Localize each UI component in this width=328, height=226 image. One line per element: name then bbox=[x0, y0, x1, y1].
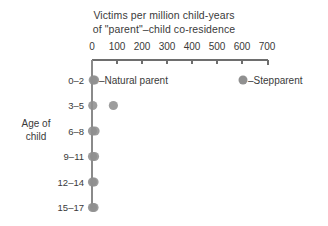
stepparent-annotation: –Stepparent bbox=[248, 75, 303, 86]
dot-plot-chart: Victims per million child-years of "pare… bbox=[0, 0, 328, 226]
y-category-label-0-2: 0–2 bbox=[40, 75, 84, 86]
y-axis-title-line-2: child bbox=[8, 131, 64, 144]
data-marker bbox=[88, 101, 97, 110]
x-axis bbox=[92, 60, 268, 65]
y-category-label-12-14: 12–14 bbox=[30, 177, 84, 188]
data-marker bbox=[90, 75, 99, 84]
data-marker bbox=[89, 203, 98, 212]
data-marker bbox=[90, 126, 99, 135]
data-marker bbox=[89, 177, 98, 186]
y-category-label-9-11: 9–11 bbox=[34, 151, 84, 162]
data-marker bbox=[90, 152, 99, 161]
y-axis-title: Age of child bbox=[8, 118, 64, 143]
plot-area bbox=[0, 0, 328, 226]
data-marker bbox=[109, 101, 118, 110]
natural-parent-annotation: –Natural parent bbox=[99, 75, 168, 86]
y-axis-title-line-1: Age of bbox=[8, 118, 64, 131]
y-category-label-15-17: 15–17 bbox=[30, 202, 84, 213]
y-category-label-3-5: 3–5 bbox=[40, 100, 84, 111]
stepparent-legend-marker-icon bbox=[239, 76, 248, 85]
